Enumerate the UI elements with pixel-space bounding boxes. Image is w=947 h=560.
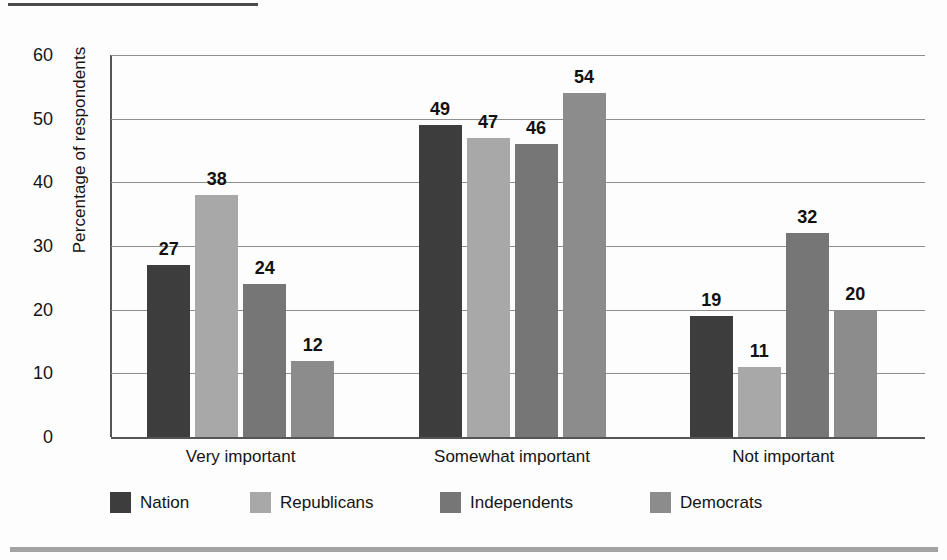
top-divider-rule (8, 3, 258, 6)
legend-label: Independents (470, 493, 573, 513)
y-tick-label-20: 20 (7, 299, 53, 320)
plot-area: 273824124947465419113220 (111, 55, 925, 437)
y-axis-title: Percentage of respondents (70, 0, 90, 300)
bar-value-label: 38 (207, 169, 227, 190)
bar-value-label: 19 (701, 290, 721, 311)
gridline-60 (111, 55, 925, 56)
bar-value-label: 32 (797, 207, 817, 228)
bottom-divider-rule (10, 547, 938, 552)
y-tick-label-60: 60 (7, 45, 53, 66)
legend-label: Democrats (680, 493, 762, 513)
category-label-2: Not important (732, 447, 834, 467)
bar-value-label: 12 (303, 335, 323, 356)
category-label-1: Somewhat important (434, 447, 590, 467)
legend-swatch-icon (250, 492, 271, 513)
legend-swatch-icon (650, 492, 671, 513)
bar-nation-0 (147, 265, 190, 437)
gridline-50 (111, 119, 925, 120)
bar-value-label: 20 (845, 284, 865, 305)
x-axis-baseline (111, 437, 925, 439)
bar-republicans-0 (195, 195, 238, 437)
bar-value-label: 49 (430, 99, 450, 120)
bar-nation-2 (690, 316, 733, 437)
bar-independents-2 (786, 233, 829, 437)
bar-republicans-2 (738, 367, 781, 437)
bar-democrats-2 (834, 310, 877, 437)
legend-label: Republicans (280, 493, 374, 513)
chart-figure: Percentage of respondents 0102030405060 … (0, 0, 947, 560)
bar-value-label: 54 (574, 67, 594, 88)
bar-independents-1 (515, 144, 558, 437)
legend-swatch-icon (110, 492, 131, 513)
legend-item-nation[interactable]: Nation (110, 492, 189, 513)
y-tick-label-40: 40 (7, 172, 53, 193)
y-tick-label-10: 10 (7, 363, 53, 384)
bar-value-label: 46 (526, 118, 546, 139)
y-tick-label-30: 30 (7, 236, 53, 257)
bar-value-label: 11 (750, 341, 769, 362)
legend-item-republicans[interactable]: Republicans (250, 492, 374, 513)
bar-democrats-1 (563, 93, 606, 437)
bar-nation-1 (419, 125, 462, 437)
bar-value-label: 24 (255, 258, 275, 279)
legend-swatch-icon (440, 492, 461, 513)
bar-republicans-1 (467, 138, 510, 437)
bar-independents-0 (243, 284, 286, 437)
legend-item-democrats[interactable]: Democrats (650, 492, 762, 513)
legend-item-independents[interactable]: Independents (440, 492, 573, 513)
bar-value-label: 27 (159, 239, 179, 260)
y-tick-label-50: 50 (7, 108, 53, 129)
legend-label: Nation (140, 493, 189, 513)
y-tick-label-0: 0 (7, 427, 53, 448)
bar-democrats-0 (291, 361, 334, 437)
category-label-0: Very important (186, 447, 296, 467)
bar-value-label: 47 (478, 112, 498, 133)
